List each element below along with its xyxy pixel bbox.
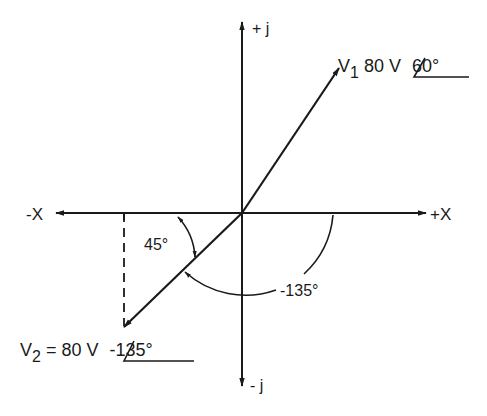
phasor-v1-arrow bbox=[242, 68, 339, 213]
v1-magnitude: 80 V bbox=[359, 56, 406, 76]
v2-subscript: 2 bbox=[32, 348, 41, 365]
v2-angle: -135° bbox=[109, 340, 152, 360]
phasor-v2-label: V2 = 80 V -135° bbox=[20, 340, 194, 365]
v2-magnitude: = 80 V bbox=[41, 340, 104, 360]
pos-imag-axis-label: + j bbox=[252, 20, 269, 37]
v2-symbol: V bbox=[20, 340, 32, 360]
pos-real-axis-label: +X bbox=[430, 205, 451, 224]
angle-arc-45 bbox=[178, 217, 195, 257]
neg-real-axis-label: -X bbox=[26, 205, 43, 224]
phasor-diagram: -X +X + j - j V1 80 V 60° V2 = 80 V -135… bbox=[0, 0, 487, 416]
angle-label-45: 45° bbox=[144, 236, 168, 253]
phasor-v1-label: V1 80 V 60° bbox=[338, 56, 469, 81]
angle-arc-minus-135-lower bbox=[185, 272, 276, 295]
neg-imag-axis-label: - j bbox=[250, 377, 263, 394]
angle-label-minus-135: -135° bbox=[280, 282, 318, 299]
phasor-v2-arrow bbox=[124, 213, 242, 327]
v1-symbol: V bbox=[338, 56, 350, 76]
v1-subscript: 1 bbox=[350, 64, 359, 81]
angle-arc-minus-135 bbox=[304, 215, 333, 274]
